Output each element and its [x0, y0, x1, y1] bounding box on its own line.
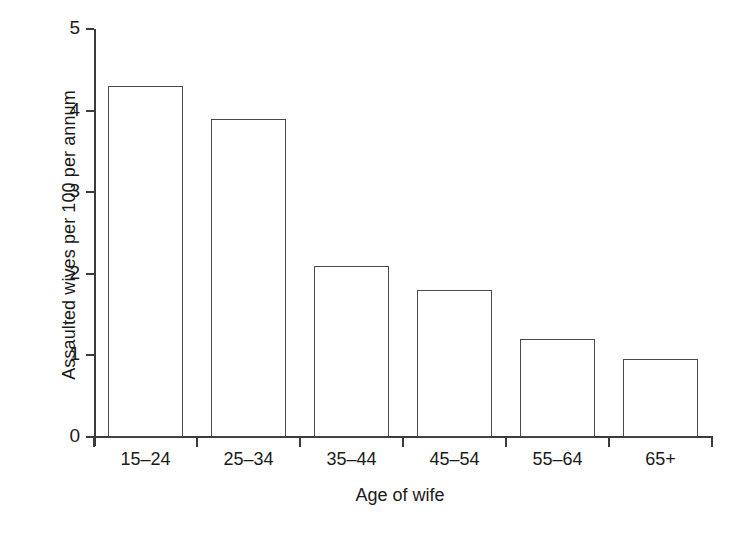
y-axis-tick [86, 191, 94, 193]
x-axis-tick [505, 438, 507, 447]
x-axis-category-label: 55–64 [506, 448, 609, 470]
x-axis-tick [711, 438, 713, 447]
y-axis-tick-label: 0 [52, 426, 80, 446]
y-axis-tick-label: 1 [52, 344, 80, 364]
y-axis-tick [86, 354, 94, 356]
y-axis-tick-label: 4 [52, 100, 80, 120]
bar-chart-figure: Assaulted wives per 100 per annum 543210… [0, 0, 737, 536]
y-axis-tick [86, 110, 94, 112]
x-axis-tick [608, 438, 610, 447]
y-axis-tick-label-text: 1 [56, 344, 80, 363]
y-axis-tick-label-text: 4 [56, 100, 80, 119]
y-axis-tick-label-text: 2 [56, 263, 80, 282]
x-axis-category-label: 25–34 [197, 448, 300, 470]
x-axis-category-label: 35–44 [300, 448, 403, 470]
x-axis-tick [402, 438, 404, 447]
bar-55-64 [520, 339, 595, 437]
x-axis-category-label: 65+ [609, 448, 712, 470]
plot-area [94, 29, 712, 437]
bar-65+ [623, 359, 698, 437]
y-axis-tick-label: 5 [52, 18, 80, 38]
x-axis-title: Age of wife [0, 485, 737, 506]
y-axis-title: Assaulted wives per 100 per annum [46, 15, 92, 455]
x-axis-tick [299, 438, 301, 447]
y-axis-tick-label: 2 [52, 263, 80, 283]
y-axis-tick [86, 28, 94, 30]
y-axis-tick-label-text: 0 [56, 426, 80, 445]
x-axis-tick [196, 438, 198, 447]
bar-35-44 [314, 266, 389, 437]
bar-15-24 [108, 86, 183, 437]
x-axis-category-label: 45–54 [403, 448, 506, 470]
bar-25-34 [211, 119, 286, 437]
y-axis-tick-label-text: 5 [56, 18, 80, 37]
bar-45-54 [417, 290, 492, 437]
y-axis-tick-label-text: 3 [56, 181, 80, 200]
x-axis-tick [93, 438, 95, 447]
y-axis-tick [86, 273, 94, 275]
y-axis-tick-label: 3 [52, 181, 80, 201]
x-axis-category-label: 15–24 [94, 448, 197, 470]
